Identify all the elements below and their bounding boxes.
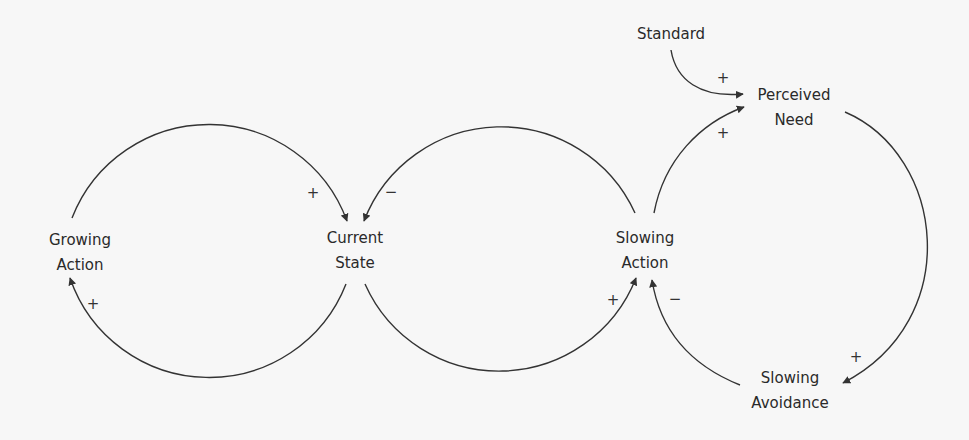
- node-label: State: [327, 251, 383, 276]
- link-growing-to-current: [72, 124, 347, 221]
- link-need-to-avoidance: [843, 112, 927, 383]
- node-label: Slowing: [751, 366, 828, 391]
- node-label: Avoidance: [751, 391, 828, 416]
- node-label: Current: [327, 226, 383, 251]
- polarity-minus: −: [385, 183, 398, 201]
- link-current-to-growing: [70, 278, 346, 377]
- polarity-plus: +: [307, 184, 320, 202]
- node-growing-action: Growing Action: [49, 228, 111, 278]
- node-label: Slowing: [616, 226, 674, 251]
- link-current-to-slowing: [365, 278, 636, 371]
- polarity-plus: +: [87, 295, 100, 313]
- node-label: Standard: [637, 22, 705, 47]
- link-standard-to-need: [671, 50, 743, 95]
- link-avoidance-to-slowing: [652, 280, 740, 385]
- link-slowing-to-current: [364, 127, 635, 221]
- link-slowing-to-need: [654, 107, 744, 213]
- node-label: Action: [49, 253, 111, 278]
- polarity-plus: +: [717, 69, 730, 87]
- node-current-state: Current State: [327, 226, 383, 276]
- polarity-plus: +: [850, 348, 863, 366]
- node-label: Growing: [49, 228, 111, 253]
- node-slowing-avoidance: Slowing Avoidance: [751, 366, 828, 416]
- polarity-plus: +: [717, 124, 730, 142]
- polarity-plus: +: [607, 291, 620, 309]
- node-label: Need: [758, 108, 831, 133]
- node-label: Action: [616, 251, 674, 276]
- polarity-minus: −: [669, 290, 682, 308]
- node-perceived-need: Perceived Need: [758, 83, 831, 133]
- node-standard: Standard: [637, 22, 705, 47]
- node-label: Perceived: [758, 83, 831, 108]
- node-slowing-action: Slowing Action: [616, 226, 674, 276]
